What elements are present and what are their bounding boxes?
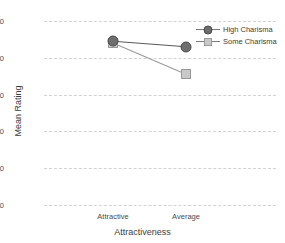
legend-label-high-charisma: High Charisma xyxy=(220,25,273,34)
line-chart: 100 80 60 40 20 0 Attractive Average Att… xyxy=(0,0,285,243)
line-some-charisma xyxy=(113,43,186,74)
circle-marker-icon xyxy=(204,25,213,34)
chart-legend: High Charisma Some Charisma xyxy=(196,24,277,48)
line-high-charisma xyxy=(113,41,186,47)
legend-key-some-charisma xyxy=(196,36,220,47)
legend-key-high-charisma xyxy=(196,24,220,35)
data-point-some-charisma-average[interactable] xyxy=(181,69,191,79)
legend-item-high-charisma[interactable]: High Charisma xyxy=(196,24,277,35)
y-axis-title: Mean Rating xyxy=(13,76,23,146)
legend-label-some-charisma: Some Charisma xyxy=(220,37,277,46)
square-marker-icon xyxy=(204,38,212,46)
data-point-high-charisma-average[interactable] xyxy=(181,41,192,52)
x-axis-title: Attractiveness xyxy=(0,227,285,237)
x-tick-label-average: Average xyxy=(172,212,200,221)
x-tick-label-attractive: Attractive xyxy=(97,212,128,221)
legend-item-some-charisma[interactable]: Some Charisma xyxy=(196,36,277,47)
data-point-high-charisma-attractive[interactable] xyxy=(108,36,119,47)
